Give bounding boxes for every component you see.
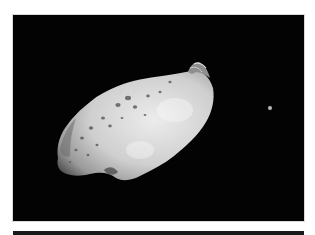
asteroid-photo (13, 15, 304, 221)
moon (268, 106, 272, 110)
bottom-rule (13, 231, 304, 235)
photo-frame (13, 15, 304, 221)
